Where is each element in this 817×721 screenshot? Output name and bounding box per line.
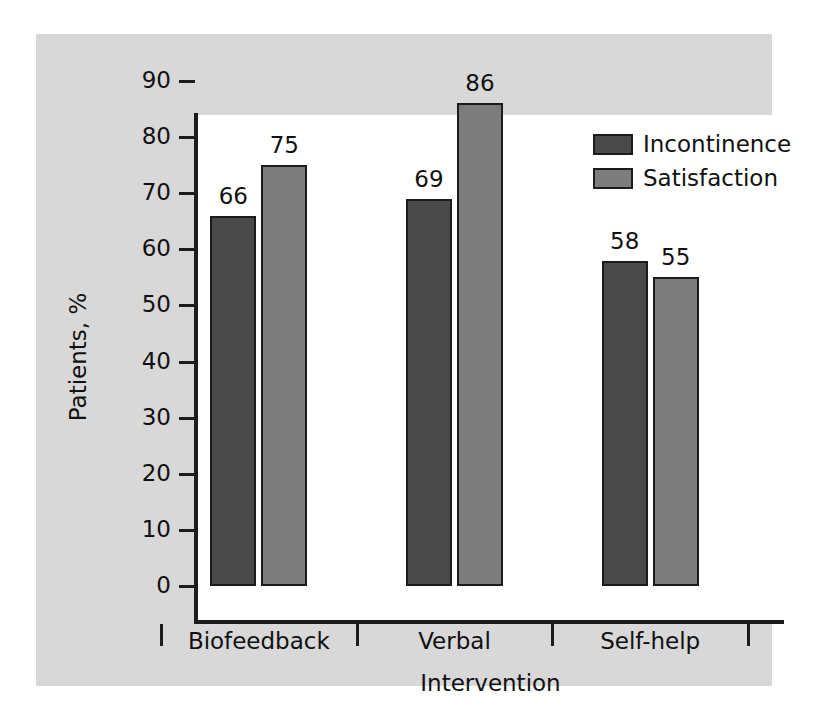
y-axis-tick-label: 80 — [86, 125, 171, 148]
y-axis-tick — [179, 417, 195, 420]
y-axis-tick-label: 30 — [86, 406, 171, 429]
y-axis-tick — [179, 80, 195, 83]
y-axis-tick-label: 10 — [86, 518, 171, 541]
legend-item: Satisfaction — [593, 163, 791, 193]
y-axis-tick — [179, 248, 195, 251]
y-axis-tick-label: 40 — [86, 350, 171, 373]
x-axis-category-label: Self-help — [540, 630, 760, 653]
bar — [602, 261, 648, 586]
bar — [653, 277, 699, 586]
bar-value-label: 75 — [244, 134, 324, 157]
bar — [457, 103, 503, 586]
y-axis-tick — [179, 585, 195, 588]
legend-label: Satisfaction — [643, 167, 778, 190]
x-axis-spine — [194, 620, 784, 624]
figure-panel: 0102030405060708090 BiofeedbackVerbalSel… — [36, 34, 772, 686]
y-axis-tick-label: 70 — [86, 181, 171, 204]
legend-item: Incontinence — [593, 129, 791, 159]
y-axis-title: Patients, % — [65, 257, 91, 457]
x-axis-category-label: Biofeedback — [149, 630, 369, 653]
bar-value-label: 86 — [440, 72, 520, 95]
legend: IncontinenceSatisfaction — [593, 129, 791, 197]
legend-swatch — [593, 168, 633, 189]
legend-label: Incontinence — [643, 133, 791, 156]
bar — [210, 216, 256, 586]
x-axis-category-label: Verbal — [345, 630, 565, 653]
bar-value-label: 55 — [636, 246, 716, 269]
y-axis-tick-label: 50 — [86, 293, 171, 316]
x-axis-title: Intervention — [197, 670, 784, 696]
y-axis-tick — [179, 473, 195, 476]
y-axis-tick — [179, 529, 195, 532]
y-axis-tick — [179, 304, 195, 307]
bar — [406, 199, 452, 586]
y-axis-tick-label: 20 — [86, 462, 171, 485]
legend-swatch — [593, 134, 633, 155]
bar — [261, 165, 307, 586]
figure: 0102030405060708090 BiofeedbackVerbalSel… — [0, 0, 817, 721]
y-axis-tick-label: 0 — [86, 574, 171, 597]
y-axis-tick-label: 90 — [86, 69, 171, 92]
y-axis-tick — [179, 361, 195, 364]
y-axis-tick — [179, 136, 195, 139]
y-axis-tick-label: 60 — [86, 237, 171, 260]
